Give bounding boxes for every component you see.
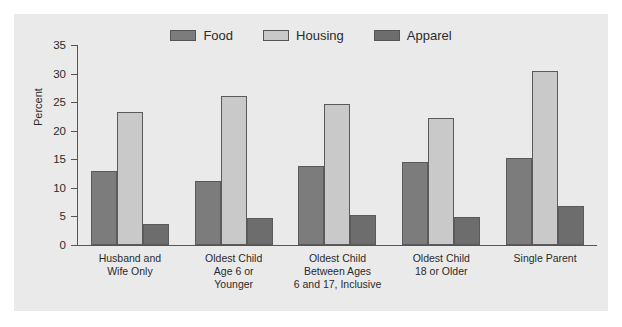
bar-housing: [117, 112, 143, 245]
x-axis-line: [77, 245, 597, 246]
y-tick-label: 10: [44, 182, 66, 194]
y-tick-label: 20: [44, 125, 66, 137]
bar-apparel: [143, 224, 169, 245]
y-tick-mark: [71, 102, 77, 103]
plot-area: Percent 05101520253035 Husband and Wife …: [14, 14, 608, 311]
bar-housing: [428, 118, 454, 245]
x-tick-label: Single Parent: [493, 252, 597, 265]
bar-food: [402, 162, 428, 245]
bar-housing: [324, 104, 350, 245]
bar-housing: [532, 71, 558, 245]
bar-group: [78, 45, 182, 245]
bar-apparel: [350, 215, 376, 245]
bar-group: [286, 45, 390, 245]
y-tick-label: 30: [44, 68, 66, 80]
x-tick-label: Oldest Child Between Ages 6 and 17, Incl…: [286, 252, 390, 291]
y-tick-mark: [71, 74, 77, 75]
y-tick-label: 0: [44, 239, 66, 251]
x-tick-label: Husband and Wife Only: [78, 252, 182, 278]
y-tick-label: 5: [44, 210, 66, 222]
y-axis-title: Percent: [32, 88, 44, 126]
y-tick-mark: [71, 131, 77, 132]
y-tick-mark: [71, 245, 77, 246]
bar-food: [298, 166, 324, 245]
y-tick-mark: [71, 188, 77, 189]
x-axis-category-labels: Husband and Wife OnlyOldest Child Age 6 …: [78, 252, 597, 304]
x-tick-label: Oldest Child Age 6 or Younger: [182, 252, 286, 291]
y-tick-label: 35: [44, 39, 66, 51]
bar-food: [195, 181, 221, 245]
bar-housing: [221, 96, 247, 245]
y-tick-label: 15: [44, 153, 66, 165]
y-tick-label: 25: [44, 96, 66, 108]
bar-group: [493, 45, 597, 245]
bar-apparel: [558, 206, 584, 245]
y-axis-tick-labels: 05101520253035: [44, 14, 66, 311]
y-tick-mark: [71, 45, 77, 46]
bars-area: [78, 45, 597, 245]
y-tick-mark: [71, 216, 77, 217]
bar-food: [506, 158, 532, 245]
y-tick-mark: [71, 159, 77, 160]
bar-apparel: [247, 218, 273, 245]
chart-figure: Food Housing Apparel Percent 05101520253…: [14, 14, 608, 311]
bar-group: [389, 45, 493, 245]
x-tick-label: Oldest Child 18 or Older: [389, 252, 493, 278]
bar-apparel: [454, 217, 480, 245]
bar-group: [182, 45, 286, 245]
bar-food: [91, 171, 117, 245]
